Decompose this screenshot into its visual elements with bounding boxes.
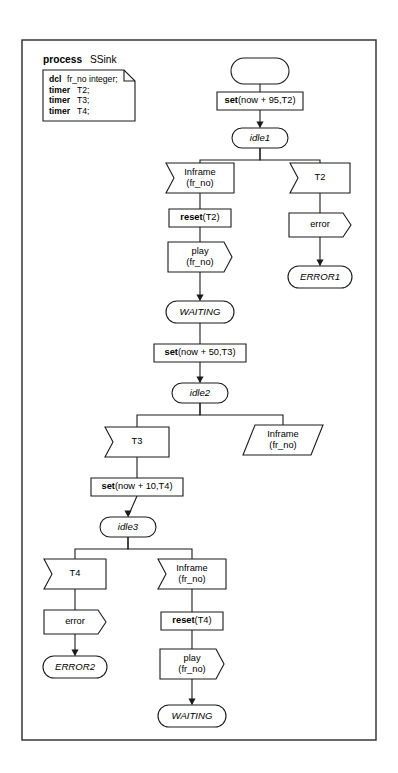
- sdl-symbol-task-reset4[interactable]: reset(T4): [161, 612, 223, 630]
- sdl-symbol-save-inframe[interactable]: Inframe(fr_no): [243, 425, 323, 455]
- symbol-label: (fr_no): [186, 178, 213, 188]
- sdl-symbol-start[interactable]: [231, 58, 289, 84]
- sdl-symbol-out-error1[interactable]: error: [289, 213, 351, 237]
- sdl-symbol-out-play2[interactable]: play(fr_no): [160, 649, 224, 679]
- connector-out-play1-to-state-wait1: [196, 272, 203, 301]
- sdl-symbol-in-t2[interactable]: T2: [290, 163, 350, 193]
- symbol-label: T2: [315, 172, 326, 182]
- symbol-layer: set(now + 95,T2)idle1Inframe(fr_no)T2res…: [43, 58, 352, 727]
- sdl-diagram-page: set(now + 95,T2)idle1Inframe(fr_no)T2res…: [0, 0, 398, 773]
- symbol-label: T3: [132, 436, 143, 446]
- symbol-label: error: [310, 219, 330, 229]
- process-name: SSink: [90, 54, 118, 65]
- symbol-label: Inframe: [176, 563, 208, 573]
- declaration-text: T3;: [77, 95, 89, 105]
- sdl-symbol-task-set10[interactable]: set(now + 10,T4): [91, 478, 183, 496]
- declaration-keyword: timer: [49, 95, 71, 105]
- symbol-label: set(now + 10,T4): [101, 481, 172, 491]
- process-heading: processSSink: [43, 54, 118, 65]
- connector-state-idle3-to-in-t4: [75, 537, 128, 559]
- arrowhead-icon: [196, 295, 203, 301]
- connector-line: [260, 148, 320, 163]
- connector-out-error1-to-state-err1: [316, 237, 323, 266]
- arrowhead-icon: [124, 511, 131, 517]
- arrowhead-icon: [71, 650, 78, 656]
- sdl-symbol-state-wait2[interactable]: WAITING: [158, 705, 226, 727]
- symbol-label: WAITING: [172, 710, 213, 721]
- sdl-symbol-task-reset2[interactable]: reset(T2): [169, 209, 231, 227]
- symbol-label: WAITING: [180, 306, 221, 317]
- sdl-symbol-in-t3[interactable]: T3: [105, 427, 169, 457]
- connector-state-idle2-to-in-t3: [137, 403, 200, 427]
- symbol-label: play: [183, 653, 200, 663]
- connector-line: [75, 537, 128, 559]
- connector-state-idle3-to-in-inframe2: [128, 537, 192, 559]
- symbol-label: idle2: [190, 387, 211, 398]
- symbol-label: idle3: [118, 521, 139, 532]
- sdl-symbol-state-idle3[interactable]: idle3: [100, 517, 156, 537]
- sdl-symbol-task-set50[interactable]: set(now + 50,T3): [154, 344, 246, 362]
- symbol-label: Inframe: [267, 429, 299, 439]
- declaration-keyword: timer: [49, 106, 71, 116]
- process-keyword: process: [43, 54, 82, 65]
- sdl-process-diagram: set(now + 95,T2)idle1Inframe(fr_no)T2res…: [0, 0, 398, 773]
- sdl-symbol-in-inframe2[interactable]: Inframe(fr_no): [158, 559, 226, 589]
- declaration-keyword: dcl: [49, 74, 61, 84]
- connector-task-set10-to-state-idle3: [124, 496, 137, 517]
- declaration-text: T2;: [77, 85, 89, 95]
- sdl-symbol-state-idle2[interactable]: idle2: [172, 383, 228, 403]
- arrowhead-icon: [256, 122, 263, 128]
- symbol-label: (fr_no): [186, 257, 213, 267]
- sdl-symbol-in-inframe1[interactable]: Inframe(fr_no): [166, 163, 234, 193]
- connector-state-idle1-to-in-t2: [260, 148, 320, 163]
- symbol-label: Inframe: [184, 167, 216, 177]
- connector-out-play2-to-state-wait2: [188, 679, 195, 705]
- connector-state-idle2-to-save-inframe: [200, 403, 283, 425]
- connector-line: [200, 403, 283, 425]
- connector-state-idle1-to-in-inframe1: [200, 148, 260, 163]
- connector-line: [128, 537, 192, 559]
- symbol-label: ERROR1: [300, 271, 340, 282]
- connector-out-error2-to-state-err2: [71, 634, 78, 656]
- symbol-label: set(now + 95,T2): [224, 95, 295, 105]
- symbol-label: (fr_no): [178, 664, 205, 674]
- sdl-symbol-state-idle1[interactable]: idle1: [232, 128, 288, 148]
- start-symbol: [231, 58, 289, 84]
- symbol-label: idle1: [250, 132, 270, 143]
- sdl-symbol-out-error2[interactable]: error: [44, 610, 106, 634]
- symbol-label: (fr_no): [178, 574, 205, 584]
- connector-line: [137, 403, 200, 427]
- arrowhead-icon: [188, 699, 195, 705]
- symbol-label: T4: [70, 568, 81, 578]
- symbol-label: reset(T4): [172, 615, 211, 625]
- connector-task-set95-to-state-idle1: [256, 110, 263, 128]
- symbol-label: error: [65, 616, 85, 626]
- sdl-symbol-out-play1[interactable]: play(fr_no): [168, 242, 232, 272]
- sdl-symbol-task-set95[interactable]: set(now + 95,T2): [217, 92, 303, 110]
- connector-line: [200, 148, 260, 163]
- declaration-box: dclfr_no integer;timerT2;timerT3;timerT4…: [43, 70, 135, 121]
- symbol-label: play: [191, 246, 208, 256]
- symbol-label: ERROR2: [55, 661, 96, 672]
- declaration-keyword: timer: [49, 85, 71, 95]
- sdl-symbol-state-err1[interactable]: ERROR1: [288, 266, 352, 288]
- sdl-symbol-in-t4[interactable]: T4: [44, 559, 106, 589]
- sdl-symbol-state-wait1[interactable]: WAITING: [166, 301, 234, 323]
- connector-task-set50-to-state-idle2: [196, 362, 203, 383]
- symbol-label: reset(T2): [180, 212, 219, 222]
- declaration-layer: processSSinkdclfr_no integer;timerT2;tim…: [43, 54, 135, 121]
- declaration-text: T4;: [77, 106, 89, 116]
- symbol-label: set(now + 50,T3): [164, 347, 235, 357]
- sdl-symbol-state-err2[interactable]: ERROR2: [43, 656, 107, 678]
- symbol-label: (fr_no): [269, 440, 296, 450]
- declaration-text: fr_no integer;: [67, 74, 118, 84]
- arrowhead-icon: [196, 377, 203, 383]
- arrowhead-icon: [316, 260, 323, 266]
